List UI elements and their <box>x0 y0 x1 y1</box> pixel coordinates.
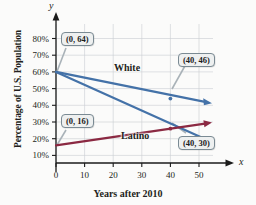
leader-40-46 <box>172 64 186 89</box>
y-axis-title: Percentage of U.S. Population <box>13 14 23 164</box>
y-axis-variable-label: y <box>49 0 53 11</box>
leader-0-16 <box>57 130 66 145</box>
x-tick-label-40: 40 <box>160 170 180 180</box>
callout-point-40-30: (40, 30) <box>178 136 215 150</box>
series-label-latino: Latino <box>121 130 149 141</box>
callout-point-0-64: (0, 64) <box>61 32 94 46</box>
x-tick-label-0: 0 <box>46 170 66 180</box>
x-axis-variable-label: x <box>239 156 243 167</box>
latino-datapoint-40-30 <box>169 127 173 131</box>
leader-0-64 <box>57 48 66 72</box>
chart-figure: y x 10% 20% 30% 40% 50% 60% 70% 80% 0 10… <box>0 0 256 205</box>
x-tick-label-20: 20 <box>103 170 123 180</box>
x-tick-label-30: 30 <box>132 170 152 180</box>
y-axis <box>52 12 59 172</box>
callout-point-40-46: (40, 46) <box>178 53 215 67</box>
callout-point-0-16: (0, 16) <box>61 114 94 128</box>
x-axis <box>56 160 234 167</box>
white-line-arrowhead <box>203 98 212 105</box>
y-axis-arrowhead <box>53 12 60 21</box>
x-tick-label-50: 50 <box>189 170 209 180</box>
x-axis-arrowhead <box>226 160 235 167</box>
series-label-white: White <box>114 62 140 73</box>
white-datapoint-40-46 <box>169 97 173 101</box>
x-axis-title: Years after 2010 <box>0 188 256 199</box>
x-tick-label-10: 10 <box>75 170 95 180</box>
latino-line-arrowhead <box>203 120 212 127</box>
